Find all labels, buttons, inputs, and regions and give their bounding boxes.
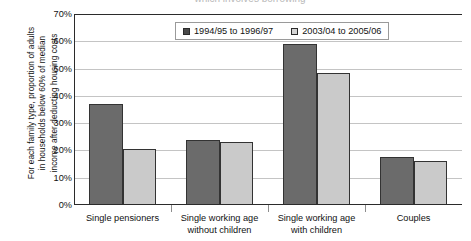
y-axis-tick-20: 20% <box>40 145 72 155</box>
bar-group-1 <box>171 14 268 205</box>
bar-0-0[interactable] <box>89 104 123 205</box>
bar-group-0 <box>74 14 171 205</box>
legend-item-1: 2003/04 to 2005/06 <box>291 26 381 36</box>
bar-0-1[interactable] <box>123 149 157 205</box>
category-label-1: Single working agewithout children <box>171 212 268 236</box>
category-label-0-line-0: Single pensioners <box>74 212 171 224</box>
axis-top-line <box>74 14 462 15</box>
bar-1-1[interactable] <box>220 142 254 205</box>
category-label-2-line-0: Single working age <box>268 212 365 224</box>
category-label-2: Single working agewith children <box>268 212 365 236</box>
chart-title: which involves borrowing <box>150 0 350 5</box>
y-axis-tick-0: 0% <box>40 200 72 210</box>
category-label-2-line-1: with children <box>268 224 365 236</box>
legend-label-0: 1994/95 to 1996/97 <box>194 26 273 36</box>
axis-left-line <box>74 14 75 205</box>
bar-2-1[interactable] <box>317 73 351 205</box>
plot-area <box>74 14 462 205</box>
y-axis-tick-60: 60% <box>40 36 72 46</box>
legend-swatch-icon-1 <box>291 28 298 35</box>
category-label-3-line-0: Couples <box>365 212 462 224</box>
bar-2-0[interactable] <box>283 44 317 205</box>
chart-container: which involves borrowing For each family… <box>0 0 471 241</box>
y-axis-tick-labels: 0%10%20%30%40%50%60%70% <box>40 0 72 241</box>
category-tick-1 <box>171 205 172 212</box>
y-axis-tick-50: 50% <box>40 64 72 74</box>
bar-group-3 <box>365 14 462 205</box>
bar-3-0[interactable] <box>380 157 414 205</box>
category-label-1-line-0: Single working age <box>171 212 268 224</box>
legend-swatch-icon-0 <box>183 28 190 35</box>
y-axis-tick-40: 40% <box>40 91 72 101</box>
y-axis-tick-70: 70% <box>40 9 72 19</box>
legend-item-0: 1994/95 to 1996/97 <box>183 26 273 36</box>
bar-group-2 <box>268 14 365 205</box>
x-axis-category-labels: Single pensionersSingle working agewitho… <box>74 212 462 241</box>
y-axis-tick-30: 30% <box>40 118 72 128</box>
legend-label-1: 2003/04 to 2005/06 <box>302 26 381 36</box>
category-label-0: Single pensioners <box>74 212 171 224</box>
y-axis-label-line-1: For each family type, proportion of adul… <box>26 27 37 179</box>
bar-series-group <box>74 14 462 205</box>
category-tick-2 <box>268 205 269 212</box>
chart-legend: 1994/95 to 1996/97 2003/04 to 2005/06 <box>175 22 389 40</box>
bar-1-0[interactable] <box>186 140 220 205</box>
category-label-3: Couples <box>365 212 462 224</box>
y-axis-tick-10: 10% <box>40 173 72 183</box>
category-tick-3 <box>365 205 366 212</box>
bar-3-1[interactable] <box>414 161 448 205</box>
category-label-1-line-1: without children <box>171 224 268 236</box>
